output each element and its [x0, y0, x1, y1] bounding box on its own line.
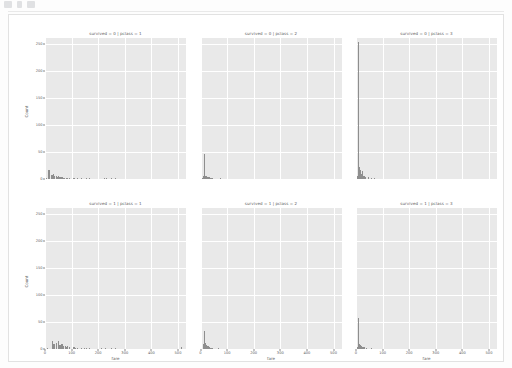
gridline-vertical: [356, 38, 357, 179]
x-axis-tick-mark: [382, 349, 383, 351]
x-axis-tick-mark: [227, 349, 228, 351]
x-axis-tick-label: 100: [224, 351, 231, 355]
gridline-vertical: [178, 208, 179, 349]
gridline-vertical: [307, 208, 308, 349]
gridline-vertical: [356, 208, 357, 349]
x-axis-tick-mark: [306, 349, 307, 351]
toolbar-icon-3[interactable]: [27, 1, 35, 8]
histogram-bar: [364, 347, 365, 349]
gridline-horizontal: [45, 268, 186, 269]
x-axis-tick-label: 100: [68, 351, 75, 355]
x-axis-tick-label: 500: [486, 351, 493, 355]
toolbar-icon-1[interactable]: [4, 1, 12, 8]
gridline-horizontal: [201, 125, 342, 126]
gridline-horizontal: [45, 98, 186, 99]
histogram-bar: [48, 170, 49, 179]
gridline-vertical: [201, 208, 202, 349]
y-axis-label: Count: [24, 275, 29, 287]
toolbar-icon-2[interactable]: [17, 1, 22, 8]
gridline-vertical: [45, 208, 46, 349]
histogram-bar: [86, 178, 87, 179]
gridline-vertical: [462, 38, 463, 179]
y-axis-tick-mark: [43, 44, 45, 45]
gridline-vertical: [227, 208, 228, 349]
y-axis-tick-mark: [43, 268, 45, 269]
app-toolbar: [4, 0, 78, 9]
facet-panel: survived = 1 | pclass = 1050100150200250…: [45, 201, 186, 349]
y-axis-tick-label: 100: [36, 293, 43, 297]
gridline-horizontal: [45, 71, 186, 72]
x-axis-tick-mark: [98, 349, 99, 351]
x-axis-tick-label: 0: [355, 351, 357, 355]
y-axis-tick-label: 250: [36, 42, 43, 46]
facet-panel: survived = 0 | pclass = 1050100150200250…: [45, 31, 186, 179]
x-axis-tick-label: 400: [148, 351, 155, 355]
gridline-horizontal: [45, 152, 186, 153]
histogram-bar: [69, 178, 70, 179]
histogram-bar: [371, 178, 372, 179]
gridline-horizontal: [356, 268, 497, 269]
gridline-horizontal: [201, 214, 342, 215]
gridline-vertical: [178, 38, 179, 179]
x-axis-tick-mark: [178, 349, 179, 351]
plot-area: [356, 38, 497, 179]
x-axis-tick-label: 400: [303, 351, 310, 355]
gridline-horizontal: [201, 268, 342, 269]
plot-area: [201, 208, 342, 349]
gridline-vertical: [489, 208, 490, 349]
x-axis-tick-label: 500: [330, 351, 337, 355]
gridline-vertical: [72, 38, 73, 179]
y-axis-tick-mark: [43, 152, 45, 153]
gridline-vertical: [45, 38, 46, 179]
x-axis-tick-label: 400: [459, 351, 466, 355]
x-axis-tick-mark: [489, 349, 490, 351]
gridline-vertical: [125, 208, 126, 349]
histogram-bar: [365, 177, 366, 179]
gridline-horizontal: [356, 214, 497, 215]
gridline-vertical: [383, 38, 384, 179]
histogram-bar: [77, 348, 78, 349]
x-axis-tick-label: 200: [250, 351, 257, 355]
y-axis-tick-label: 200: [36, 69, 43, 73]
x-axis-tick-mark: [200, 349, 201, 351]
histogram-bar: [89, 178, 90, 179]
histogram-bar: [86, 348, 87, 349]
gridline-vertical: [436, 208, 437, 349]
gridline-vertical: [280, 208, 281, 349]
gridline-horizontal: [201, 71, 342, 72]
gridline-horizontal: [201, 241, 342, 242]
plot-area: [201, 38, 342, 179]
histogram-bar: [181, 347, 182, 349]
facet-title: survived = 0 | pclass = 1: [45, 31, 186, 37]
x-axis-tick-label: 300: [121, 351, 128, 355]
y-axis-label: Count: [24, 105, 29, 117]
y-axis-tick-label: 250: [36, 212, 43, 216]
histogram-bar: [101, 348, 102, 349]
gridline-horizontal: [201, 152, 342, 153]
y-axis-tick-mark: [43, 295, 45, 296]
gridline-vertical: [280, 38, 281, 179]
facet-title: survived = 1 | pclass = 3: [356, 201, 497, 207]
facet-title: survived = 1 | pclass = 1: [45, 201, 186, 207]
y-axis-tick-label: 0: [40, 177, 42, 181]
y-axis-tick-mark: [43, 98, 45, 99]
x-axis-tick-mark: [253, 349, 254, 351]
x-axis-tick-mark: [356, 349, 357, 351]
y-axis-tick-label: 50: [38, 320, 43, 324]
gridline-vertical: [98, 38, 99, 179]
histogram-bar: [81, 178, 82, 179]
gridline-vertical: [201, 38, 202, 179]
facet-panel: survived = 1 | pclass = 2010020030040050…: [201, 201, 342, 349]
gridline-horizontal: [45, 125, 186, 126]
gridline-vertical: [151, 38, 152, 179]
gridline-vertical: [227, 38, 228, 179]
gridline-vertical: [254, 38, 255, 179]
gridline-vertical: [409, 208, 410, 349]
histogram-bar: [115, 348, 116, 349]
gridline-horizontal: [356, 71, 497, 72]
gridline-vertical: [409, 38, 410, 179]
y-axis-tick-label: 0: [40, 347, 42, 351]
x-axis-label: fare: [45, 356, 186, 361]
gridline-horizontal: [45, 295, 186, 296]
screenshot-root: survived = 0 | pclass = 1050100150200250…: [0, 0, 512, 368]
